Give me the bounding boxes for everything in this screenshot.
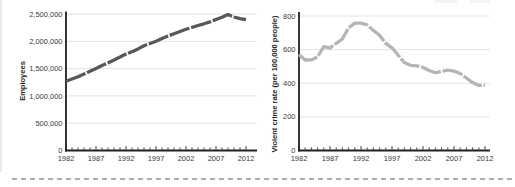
- x-tick-label: 1992: [118, 154, 135, 163]
- y-tick-label: 0: [58, 146, 62, 155]
- x-tick-label: 2012: [238, 154, 255, 163]
- x-tick-label: 2012: [477, 154, 494, 163]
- report-figure: Employees Violent crime rate (per 100,00…: [0, 0, 515, 187]
- x-tick-label: 1987: [322, 154, 339, 163]
- y-tick-label: 0: [291, 146, 295, 155]
- x-tick-label: 1982: [58, 154, 75, 163]
- x-tick-label: 1992: [353, 154, 370, 163]
- x-tick-label: 1997: [148, 154, 165, 163]
- dashed-cut-line: [12, 178, 515, 180]
- x-tick-label: 2002: [178, 154, 195, 163]
- y-tick-label: 500,000: [35, 119, 62, 128]
- x-tick-label: 1997: [384, 154, 401, 163]
- employees-axis-title: Employees: [18, 61, 27, 101]
- x-tick-label: 2007: [446, 154, 463, 163]
- x-tick-label: 2007: [208, 154, 225, 163]
- charts-canvas: Employees Violent crime rate (per 100,00…: [0, 0, 515, 174]
- x-tick-label: 1987: [88, 154, 105, 163]
- y-tick-label: 600: [283, 45, 296, 54]
- y-tick-label: 2,000,000: [29, 37, 62, 46]
- y-tick-label: 2,500,000: [29, 10, 62, 19]
- employees-line: [66, 15, 246, 82]
- y-tick-label: 1,500,000: [29, 64, 62, 73]
- y-tick-label: 200: [283, 112, 296, 121]
- violent-crime-chart: 1982198719921997200220072012020040060080…: [283, 12, 493, 163]
- employees-chart: 19821987199219972002200720120500,0001,00…: [29, 10, 257, 163]
- y-tick-label: 400: [283, 79, 296, 88]
- y-tick-label: 800: [283, 12, 296, 21]
- y-tick-label: 1,000,000: [29, 92, 62, 101]
- x-tick-label: 1982: [291, 154, 308, 163]
- crime-rate-line: [299, 23, 485, 85]
- x-tick-label: 2002: [415, 154, 432, 163]
- crime-rate-axis-title: Violent crime rate (per 100,000 people): [270, 15, 279, 153]
